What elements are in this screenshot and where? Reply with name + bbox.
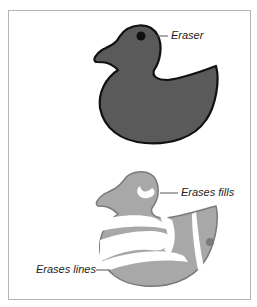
eraser-label: Eraser — [171, 29, 203, 41]
erases-fills-label: Erases fills — [181, 186, 234, 198]
eraser-cursor-icon — [137, 32, 146, 41]
erases-lines-label: Erases lines — [36, 263, 96, 275]
duck-filled — [94, 25, 217, 143]
eraser-cursor-icon-2 — [206, 238, 214, 246]
duck-illustrations — [0, 0, 257, 307]
